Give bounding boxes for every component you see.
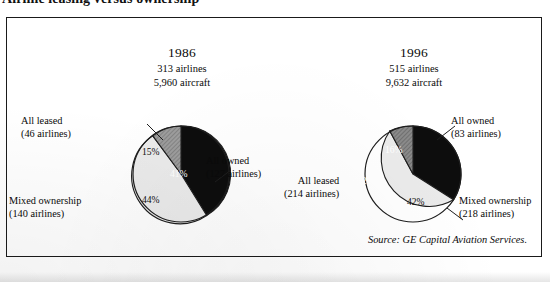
label-1986-all-owned-name: All owned — [206, 154, 261, 167]
label-1996-mixed-ownership: Mixed ownership (218 airlines) — [459, 194, 531, 221]
label-1996-all-owned: All owned (83 airlines) — [451, 114, 501, 141]
panel-aircraft-1996: 9,632 aircraft — [349, 76, 479, 90]
pct-1986-mixed: 44% — [142, 194, 159, 205]
label-1996-mixed-count: (218 airlines) — [459, 207, 531, 220]
source-value: GE Capital Aviation Services. — [403, 234, 527, 245]
panel-aircraft-1986: 5,960 aircraft — [117, 76, 247, 90]
label-1996-all-owned-count: (83 airlines) — [451, 127, 501, 140]
figure-title-strip: Airline leasing versus ownership — [0, 0, 550, 11]
page-bottom-shadow — [0, 272, 550, 282]
figure-frame: 1986 313 airlines 5,960 aircraft 15% 41%… — [6, 17, 542, 257]
panel-airlines-1996: 515 airlines — [349, 62, 479, 76]
label-1986-all-leased: All leased (46 airlines) — [21, 114, 71, 141]
label-1986-all-leased-name: All leased — [21, 114, 71, 127]
label-1986-mixed-name: Mixed ownership — [9, 194, 81, 207]
label-1996-all-leased-name: All leased — [284, 174, 339, 187]
label-1996-all-owned-name: All owned — [451, 114, 501, 127]
pct-1996-all-owned: 16% — [385, 144, 402, 155]
panel-year-1986: 1986 — [117, 44, 247, 62]
label-1986-all-owned: All owned (127 airlines) — [206, 154, 261, 181]
label-1986-mixed-count: (140 airlines) — [9, 207, 81, 220]
pct-1996-all-leased: 42% — [357, 175, 374, 186]
pct-1986-all-leased: 15% — [142, 146, 159, 157]
pct-1996-mixed: 42% — [407, 196, 424, 207]
label-1986-all-leased-count: (46 airlines) — [21, 127, 71, 140]
label-1986-all-owned-count: (127 airlines) — [206, 167, 261, 180]
figure-title: Airline leasing versus ownership — [2, 0, 199, 7]
panel-header-1986: 1986 313 airlines 5,960 aircraft — [117, 44, 247, 90]
source-label: Source: — [368, 234, 400, 245]
label-1986-mixed-ownership: Mixed ownership (140 airlines) — [9, 194, 81, 221]
pct-1986-all-owned: 41% — [170, 168, 187, 179]
label-1996-all-leased-count: (214 airlines) — [284, 187, 339, 200]
panel-airlines-1986: 313 airlines — [117, 62, 247, 76]
label-1996-all-leased: All leased (214 airlines) — [284, 174, 339, 201]
panel-header-1996: 1996 515 airlines 9,632 aircraft — [349, 44, 479, 90]
panel-year-1996: 1996 — [349, 44, 479, 62]
label-1996-mixed-name: Mixed ownership — [459, 194, 531, 207]
source-note: Source: GE Capital Aviation Services. — [368, 234, 527, 245]
